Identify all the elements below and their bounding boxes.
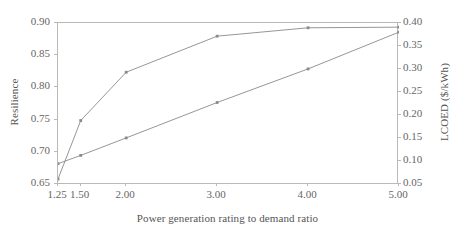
y-axis-right-tick-label: 0.30 (403, 62, 449, 73)
series-line-resilience (58, 27, 399, 179)
data-point-marker (58, 162, 59, 165)
y-axis-right-tick-label: 0.25 (403, 85, 449, 96)
plot-lines (58, 22, 399, 183)
tick-mark (398, 183, 399, 186)
y-axis-right-tick-label: 0.35 (403, 39, 449, 50)
tick-mark (398, 45, 401, 46)
y-axis-left-tick-label: 0.75 (4, 113, 50, 124)
tick-mark (57, 22, 398, 23)
tick-mark (398, 68, 401, 69)
data-point-marker (58, 178, 59, 181)
y-axis-right-tick-label: 0.10 (403, 154, 449, 165)
tick-mark (54, 119, 57, 120)
y-axis-left-tick-label: 0.65 (4, 177, 50, 188)
tick-mark (54, 151, 57, 152)
x-axis-tick-label: 3.00 (192, 189, 240, 200)
tick-mark (54, 54, 57, 55)
data-point-marker (125, 137, 128, 140)
tick-mark (54, 86, 57, 87)
tick-mark (398, 22, 401, 23)
data-point-marker (307, 68, 310, 71)
y-axis-right-tick-label: 0.15 (403, 131, 449, 142)
y-axis-right-tick-label: 0.20 (403, 108, 449, 119)
data-point-marker (216, 35, 219, 38)
tick-mark (398, 137, 401, 138)
x-axis-tick-label: 4.00 (283, 189, 331, 200)
tick-mark (398, 160, 401, 161)
data-point-marker (216, 101, 219, 104)
data-point-marker (307, 26, 310, 29)
y-axis-left-tick-label: 0.85 (4, 48, 50, 59)
y-axis-left-tick-label: 0.90 (4, 16, 50, 27)
tick-mark (57, 183, 398, 184)
data-point-marker (125, 71, 128, 74)
y-axis-left-title: Resilience (8, 57, 20, 147)
data-point-marker (398, 31, 399, 34)
plot-area (57, 22, 398, 183)
x-axis-tick-label: 1.50 (56, 189, 104, 200)
data-point-marker (79, 154, 82, 157)
series-line-lcoed-kwh (58, 32, 399, 164)
tick-mark (398, 91, 401, 92)
data-point-marker (79, 119, 82, 122)
x-axis-tick-label: 2.00 (101, 189, 149, 200)
tick-mark (398, 114, 401, 115)
x-axis-title: Power generation rating to demand ratio (57, 212, 398, 224)
x-axis-tick-label: 5.00 (374, 189, 422, 200)
data-point-marker (398, 26, 399, 29)
y-axis-left-tick-label: 0.70 (4, 145, 50, 156)
y-axis-right-tick-label: 0.40 (403, 16, 449, 27)
y-axis-right-tick-label: 0.05 (403, 177, 449, 188)
y-axis-left-tick-label: 0.80 (4, 80, 50, 91)
